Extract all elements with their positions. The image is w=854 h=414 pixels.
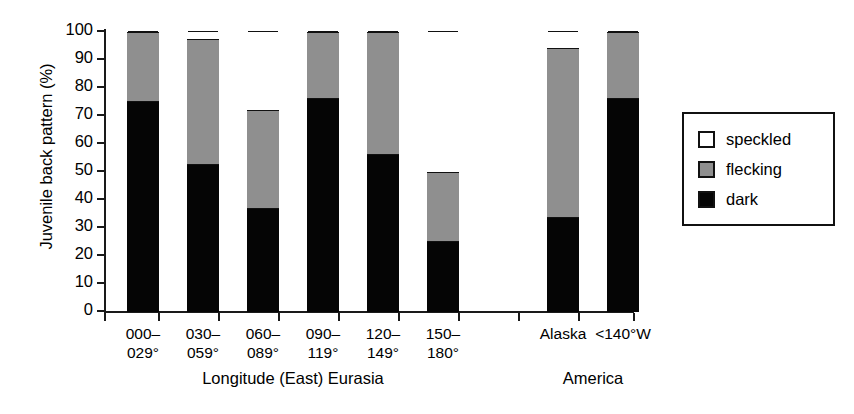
x-tick bbox=[633, 313, 635, 321]
x-category-label: 150– 180° bbox=[406, 324, 480, 362]
legend-label-speckled: speckled bbox=[726, 130, 791, 149]
legend-item-speckled[interactable]: speckled bbox=[684, 124, 833, 154]
y-tick: 0 bbox=[97, 310, 104, 312]
y-tick: 90 bbox=[97, 58, 104, 60]
bar-stacked[interactable] bbox=[428, 31, 458, 311]
y-tick-label: 50 bbox=[33, 159, 93, 179]
x-tick bbox=[158, 313, 160, 321]
y-tick: 30 bbox=[97, 226, 104, 228]
bar-segment-speckled bbox=[427, 32, 458, 172]
bar-segment-dark bbox=[247, 209, 278, 311]
bar-segment-dark bbox=[427, 242, 458, 312]
y-axis-line bbox=[104, 29, 106, 313]
bar-segment-flecking bbox=[547, 48, 578, 217]
bar-segment-dark bbox=[187, 165, 218, 312]
y-tick: 10 bbox=[97, 282, 104, 284]
bar-segment-flecking bbox=[607, 32, 638, 99]
y-tick: 70 bbox=[97, 114, 104, 116]
x-tick bbox=[398, 313, 400, 321]
bar-stacked[interactable] bbox=[308, 31, 338, 311]
bar-segment-dark bbox=[127, 102, 158, 312]
bar-segment-flecking bbox=[367, 32, 398, 155]
bar-segment-dark bbox=[547, 218, 578, 312]
y-tick: 50 bbox=[97, 170, 104, 172]
y-tick-label: 20 bbox=[33, 243, 93, 263]
legend-swatch-dark-icon bbox=[698, 191, 715, 208]
y-tick-label: 60 bbox=[33, 131, 93, 151]
y-tick: 20 bbox=[97, 254, 104, 256]
bar-stacked[interactable] bbox=[548, 31, 578, 311]
bar-stacked[interactable] bbox=[128, 31, 158, 311]
y-tick-label: 70 bbox=[33, 103, 93, 123]
legend-item-flecking[interactable]: flecking bbox=[684, 154, 833, 184]
y-tick-label: 0 bbox=[33, 299, 93, 319]
y-tick-label: 30 bbox=[33, 215, 93, 235]
bar-stacked[interactable] bbox=[248, 31, 278, 311]
y-tick-label: 40 bbox=[33, 187, 93, 207]
legend-swatch-flecking-icon bbox=[698, 161, 715, 178]
bar-segment-dark bbox=[607, 99, 638, 312]
bar-segment-speckled bbox=[547, 32, 578, 49]
x-tick bbox=[518, 313, 520, 321]
bar-segment-dark bbox=[307, 99, 338, 312]
y-tick: 40 bbox=[97, 198, 104, 200]
y-tick: 80 bbox=[97, 86, 104, 88]
legend-swatch-speckled-icon bbox=[698, 131, 715, 148]
bar-segment-flecking bbox=[187, 39, 218, 165]
y-tick: 60 bbox=[97, 142, 104, 144]
bar-segment-flecking bbox=[247, 110, 278, 209]
x-tick bbox=[104, 313, 106, 321]
bar-stacked[interactable] bbox=[368, 31, 398, 311]
x-tick bbox=[278, 313, 280, 321]
x-tick bbox=[218, 313, 220, 321]
bar-segment-dark bbox=[367, 155, 398, 312]
x-group-label: Longitude (East) Eurasia bbox=[143, 369, 443, 388]
plot-area: 0102030405060708090100 bbox=[104, 31, 634, 311]
legend-label-dark: dark bbox=[726, 190, 758, 209]
bar-segment-flecking bbox=[427, 172, 458, 242]
bar-segment-speckled bbox=[247, 32, 278, 110]
y-tick-label: 90 bbox=[33, 47, 93, 67]
legend: speckled flecking dark bbox=[682, 112, 835, 226]
figure: Juvenile back pattern (%) 01020304050607… bbox=[0, 0, 854, 414]
x-group-label: America bbox=[443, 369, 743, 388]
legend-item-dark[interactable]: dark bbox=[684, 184, 833, 214]
x-category-label: <140°W bbox=[548, 324, 698, 343]
bar-stacked[interactable] bbox=[608, 31, 638, 311]
legend-label-flecking: flecking bbox=[726, 160, 782, 179]
y-tick-label: 10 bbox=[33, 271, 93, 291]
bar-stacked[interactable] bbox=[188, 31, 218, 311]
x-tick bbox=[578, 313, 580, 321]
bar-segment-flecking bbox=[127, 32, 158, 102]
x-tick bbox=[458, 313, 460, 321]
bar-segment-flecking bbox=[307, 32, 338, 99]
y-tick-label: 100 bbox=[33, 19, 93, 39]
bar-segment-speckled bbox=[187, 32, 218, 39]
x-tick bbox=[338, 313, 340, 321]
y-tick-label: 80 bbox=[33, 75, 93, 95]
y-tick: 100 bbox=[97, 30, 104, 32]
